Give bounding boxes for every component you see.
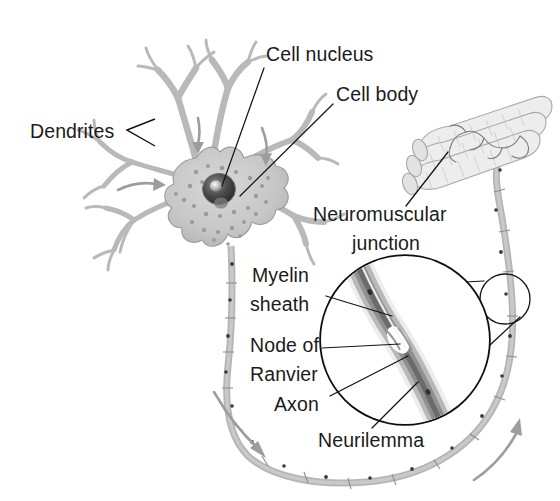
perinuclear-shadow <box>214 197 228 208</box>
neuron-diagram-canvas: Dendrites Cell nucleus Cell body Neuromu… <box>0 0 560 501</box>
nucleolus-structure <box>210 180 222 192</box>
label-myelin-sheath-line2: sheath <box>250 293 309 315</box>
label-dendrites: Dendrites <box>30 120 115 142</box>
label-neuromuscular-junction-line2: junction <box>351 232 420 254</box>
label-axon: Axon <box>274 393 319 415</box>
label-cell-body: Cell body <box>336 83 418 105</box>
dendrite-tip-17 <box>86 207 106 209</box>
neuron-diagram-figure: Dendrites Cell nucleus Cell body Neuromu… <box>0 0 560 501</box>
label-node-of-ranvier-line2: Ranvier <box>250 363 318 385</box>
label-cell-nucleus: Cell nucleus <box>266 43 374 65</box>
label-node-of-ranvier-line1: Node of <box>250 334 319 356</box>
label-neuromuscular-junction-line1: Neuromuscular <box>313 203 447 225</box>
label-neurilemma: Neurilemma <box>318 429 424 451</box>
figure-background <box>0 0 560 501</box>
label-myelin-sheath-line1: Myelin <box>252 264 309 286</box>
